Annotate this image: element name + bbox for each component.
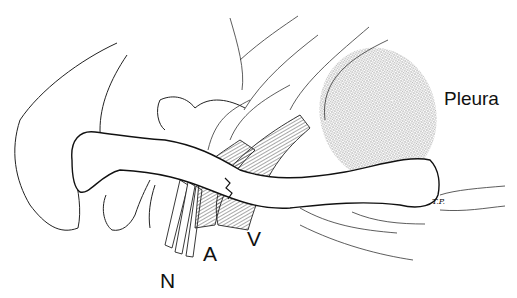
anatomical-figure: Pleura N A V T.P. (0, 0, 517, 298)
illustration (0, 0, 517, 298)
nerve-label: N (160, 270, 175, 291)
vein-label: V (247, 228, 261, 249)
artery-label: A (203, 243, 217, 264)
pleura-label: Pleura (444, 89, 499, 108)
artist-signature: T.P. (432, 198, 445, 206)
